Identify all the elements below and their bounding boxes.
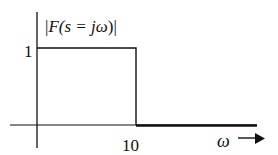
response-curve <box>37 48 136 125</box>
y-axis-title: |F(s = jω)| <box>45 17 117 36</box>
x-axis-label: ω <box>217 131 230 151</box>
x-tick-label-10: 10 <box>122 136 139 155</box>
arrow-right-icon <box>238 133 265 144</box>
y-tick-label-1: 1 <box>24 42 33 61</box>
frequency-response-chart: |F(s = jω)| 1 10 ω <box>0 0 278 155</box>
